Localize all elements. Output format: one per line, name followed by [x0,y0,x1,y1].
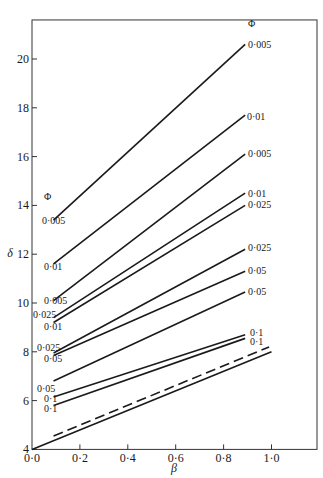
line-chart: 468101214161820 0·00·20·40·60·81·0 0·005… [0,0,323,478]
right-phi-header: Φ [248,18,255,29]
right-phi-label: 0·01 [247,111,265,122]
left-phi-label: 0·01 [44,321,62,332]
right-phi-label: 0·025 [248,242,271,253]
x-tick-label: 0·0 [24,451,40,465]
series-line [54,193,246,317]
plot-border [32,20,317,449]
y-tick-label: 10 [17,296,29,310]
x-tick-label: 0·8 [216,451,232,465]
y-tick-label: 16 [17,150,29,164]
left-phi-label: 0·005 [42,215,65,226]
series-line [54,335,246,397]
data-series [32,44,272,449]
left-phi-header: Φ [44,191,51,202]
series-line [54,154,246,300]
plot-frame [32,20,317,449]
x-axis-label: β [170,461,177,475]
x-tick-label: 1·0 [264,451,280,465]
y-tick-label: 18 [17,101,29,115]
left-phi-label: 0·1 [44,403,57,414]
right-phi-label: 0·05 [248,265,266,276]
series-line [54,115,246,264]
y-tick-label: 20 [17,52,29,66]
right-phi-label: 0·005 [248,148,271,159]
right-phi-label: 0·005 [248,39,271,50]
right-phi-label: 0·1 [250,336,263,347]
x-tick-label: 0·4 [120,451,136,465]
x-tick-label: 0·2 [72,451,88,465]
left-phi-label: 0·025 [37,342,60,353]
y-tick-label: 14 [17,198,29,212]
line-labels: 0·0050·0050·010·010·0050·0050·0250·010·0… [33,18,271,414]
y-axis-label: δ [7,246,13,260]
y-tick-label: 6 [23,394,29,408]
dashed-series-line [54,347,270,436]
series-line [54,44,246,220]
y-tick-label: 12 [17,247,29,261]
right-phi-label: 0·025 [248,199,271,210]
series-line [54,271,246,355]
left-phi-label: 0·005 [44,295,67,306]
y-axis-ticks: 468101214161820 [17,52,37,456]
left-phi-label: 0·05 [44,353,62,364]
chart-container: 468101214161820 0·00·20·40·60·81·0 0·005… [0,0,323,478]
y-tick-label: 8 [23,345,29,359]
series-line [54,338,246,405]
left-phi-label: 0·025 [33,309,56,320]
right-phi-label: 0·01 [248,188,266,199]
right-phi-label: 0·05 [248,286,266,297]
left-phi-label: 0·01 [44,261,62,272]
x-axis-ticks: 0·00·20·40·60·81·0 [24,444,280,465]
